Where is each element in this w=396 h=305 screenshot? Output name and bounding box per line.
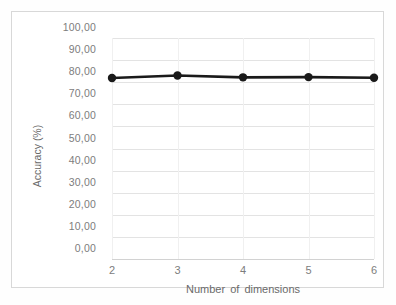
y-axis-tick-labels: 0,0010,0020,0030,0040,0050,0060,0070,008… bbox=[12, 12, 101, 287]
data-point-x4 bbox=[239, 73, 247, 81]
y-tick-label-10: 10,00 bbox=[12, 220, 96, 232]
data-point-x3 bbox=[173, 71, 181, 79]
x-axis-title-label: Number of dimensions bbox=[186, 283, 300, 295]
chart-frame: Accuracy (%) 0,0010,0020,0030,0040,0050,… bbox=[11, 11, 384, 288]
y-tick-label-100: 100,00 bbox=[12, 21, 96, 33]
y-tick-label-50: 50,00 bbox=[12, 132, 96, 144]
y-tick-label-40: 40,00 bbox=[12, 154, 96, 166]
data-point-x5 bbox=[304, 73, 312, 81]
x-tick-label-4: 4 bbox=[223, 264, 263, 276]
y-tick-label-80: 80,00 bbox=[12, 65, 96, 77]
gridline-y-0 bbox=[112, 259, 374, 260]
data-point-x6 bbox=[370, 74, 378, 82]
x-tick-label-3: 3 bbox=[158, 264, 198, 276]
y-tick-label-90: 90,00 bbox=[12, 43, 96, 55]
x-tick-label-6: 6 bbox=[354, 264, 394, 276]
y-tick-label-60: 60,00 bbox=[12, 109, 96, 121]
y-tick-label-70: 70,00 bbox=[12, 87, 96, 99]
x-axis-title: Number of dimensions bbox=[112, 283, 374, 295]
series-accuracy bbox=[112, 38, 374, 259]
y-tick-label-0: 0,00 bbox=[12, 242, 96, 254]
data-point-x2 bbox=[108, 74, 116, 82]
gridline-x-6 bbox=[374, 38, 375, 259]
x-tick-label-5: 5 bbox=[289, 264, 329, 276]
y-tick-label-20: 20,00 bbox=[12, 198, 96, 210]
y-tick-label-30: 30,00 bbox=[12, 176, 96, 188]
x-tick-label-2: 2 bbox=[92, 264, 132, 276]
chart-figure: Accuracy (%) 0,0010,0020,0030,0040,0050,… bbox=[0, 0, 396, 305]
x-axis-tick-labels: 23456 bbox=[112, 264, 374, 280]
plot-area bbox=[112, 38, 374, 259]
